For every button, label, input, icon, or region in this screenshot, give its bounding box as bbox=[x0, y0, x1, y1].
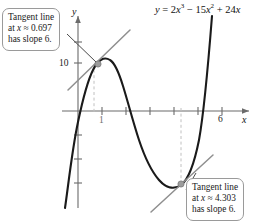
figure-canvas: y = 2x3 − 15x2 + 24x y x 10 1 6 Tangent … bbox=[0, 0, 267, 224]
equation-eq: = 2 bbox=[160, 4, 176, 15]
x-tick-label-6: 6 bbox=[218, 114, 223, 124]
callout-lower-line2-pre: at bbox=[192, 193, 201, 203]
callout-upper-line3: has slope 6. bbox=[8, 34, 54, 45]
callout-lower-line2: at x ≈ 4.303 bbox=[192, 193, 238, 204]
equation-mid: − 15 bbox=[184, 4, 206, 15]
callout-tangent-lower: Tangent line at x ≈ 4.303 has slope 6. bbox=[186, 178, 244, 221]
callout-leader-upper bbox=[67, 34, 96, 62]
tangency-point-lower bbox=[178, 181, 184, 187]
equation-label: y = 2x3 − 15x2 + 24x bbox=[155, 2, 240, 15]
callout-lower-line2-post: ≈ 4.303 bbox=[205, 193, 236, 203]
dashed-guide-lines bbox=[94, 64, 181, 184]
x-tick-label-1: 1 bbox=[99, 115, 104, 125]
x-axis bbox=[62, 108, 249, 114]
callout-upper-line2-pre: at bbox=[8, 23, 17, 33]
equation-tail: + 24 bbox=[214, 4, 236, 15]
callout-upper-line1: Tangent line bbox=[8, 12, 54, 23]
callout-lower-line3: has slope 6. bbox=[192, 204, 238, 215]
x-axis-label: x bbox=[242, 114, 246, 125]
y-axis-label: y bbox=[72, 6, 76, 17]
callout-upper-line2-post: ≈ 0.697 bbox=[21, 23, 52, 33]
callout-upper-line2: at x ≈ 0.697 bbox=[8, 23, 54, 34]
y-tick-label-10: 10 bbox=[59, 58, 69, 68]
callout-lower-line1: Tangent line bbox=[192, 182, 238, 193]
equation-var3: x bbox=[236, 4, 241, 15]
callout-tangent-upper: Tangent line at x ≈ 0.697 has slope 6. bbox=[2, 8, 60, 51]
